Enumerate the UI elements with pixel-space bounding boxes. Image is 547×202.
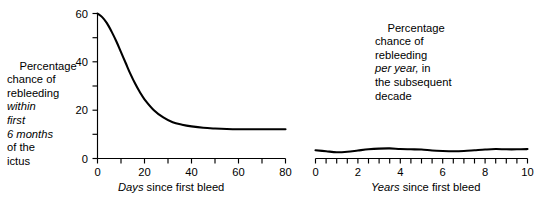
plot-surface: 0 20 40 60 0 20 40 60 80	[0, 0, 547, 202]
left-x-tick-label: 60	[232, 166, 244, 178]
right-plot-panel: 0 2 4 6 8 10	[312, 148, 533, 178]
left-plot-panel: 0 20 40 60 0 20 40 60 80	[76, 8, 292, 179]
left-y-tick-label: 20	[76, 104, 88, 116]
right-x-ticks	[316, 159, 528, 164]
left-decay-curve	[98, 14, 286, 130]
right-x-tick-label: 10	[521, 166, 533, 178]
left-y-tick-label: 0	[82, 153, 88, 165]
left-x-tick-label: 20	[138, 166, 150, 178]
left-x-tick-label: 80	[279, 166, 291, 178]
left-x-ticks	[98, 159, 286, 164]
right-flat-curve	[316, 148, 528, 152]
right-x-tick-label: 8	[482, 166, 488, 178]
left-x-tick-label: 40	[185, 166, 197, 178]
figure-rebleeding-risk: Percentage chance of rebleeding within f…	[0, 0, 547, 202]
left-y-tick-label: 40	[76, 56, 88, 68]
right-x-tick-label: 0	[312, 166, 318, 178]
left-y-ticks	[93, 14, 98, 159]
left-y-tick-label: 60	[76, 8, 88, 20]
left-x-tick-label: 0	[94, 166, 100, 178]
right-x-tick-label: 2	[355, 166, 361, 178]
right-x-tick-label: 6	[440, 166, 446, 178]
right-x-tick-label: 4	[397, 166, 403, 178]
